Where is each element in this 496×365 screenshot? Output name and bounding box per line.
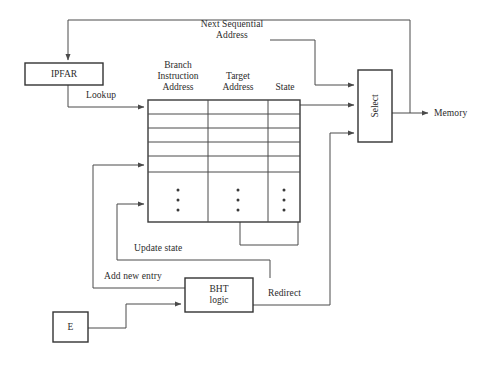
wire-e-unit-to-bht-logic	[88, 304, 181, 328]
continuation-dot	[283, 199, 286, 202]
label-redirect: Redirect	[268, 288, 301, 299]
label-add-new-entry: Add new entry	[104, 271, 162, 282]
label-lookup: Lookup	[86, 90, 116, 101]
label-update-state: Update state	[134, 243, 182, 254]
continuation-dot	[177, 199, 180, 202]
table-column-header-branch-instruction-address: Branch Instruction Address	[148, 60, 208, 93]
continuation-dot	[237, 199, 240, 202]
continuation-dot	[237, 209, 240, 212]
table-column-header-state: State	[266, 82, 304, 93]
diagram-canvas: IPFAR Select BHT logic E Branch Instruct…	[0, 0, 496, 365]
label-next-sequential-address: Next Sequential Address	[186, 19, 278, 41]
wire-next-sequential-address-to-select	[270, 40, 354, 85]
table-column-header-target-address: Target Address	[210, 71, 266, 93]
ipfar-box-label: IPFAR	[25, 63, 103, 85]
label-memory: Memory	[434, 108, 467, 119]
continuation-dot	[283, 189, 286, 192]
select-box-label: Select	[358, 70, 392, 142]
select-box-label-text: Select	[370, 94, 380, 117]
e-unit-box-label: E	[53, 312, 88, 342]
continuation-dot	[177, 189, 180, 192]
continuation-dot	[237, 189, 240, 192]
bht-logic-box-label: BHT logic	[185, 278, 253, 312]
bht-table-outline	[148, 100, 300, 222]
continuation-dot	[283, 209, 286, 212]
continuation-dot	[177, 209, 180, 212]
